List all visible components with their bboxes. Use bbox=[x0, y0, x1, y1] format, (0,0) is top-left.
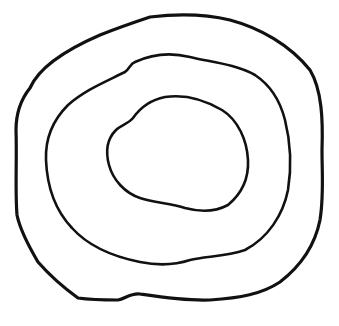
outer-ring bbox=[16, 15, 323, 300]
inner-ring bbox=[107, 96, 248, 210]
concentric-rings-drawing bbox=[0, 0, 339, 326]
middle-ring bbox=[46, 55, 290, 265]
rings-svg bbox=[0, 0, 339, 326]
